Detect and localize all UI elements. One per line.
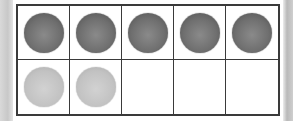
dark-counter-icon (24, 13, 64, 53)
ten-frame-cell (18, 6, 70, 60)
dark-counter-icon (76, 13, 116, 53)
dark-counter-icon (180, 13, 220, 53)
ten-frame-cell (122, 60, 174, 114)
ten-frame-cell (70, 6, 122, 60)
dark-counter-icon (128, 13, 168, 53)
ten-frame-cell (174, 6, 226, 60)
ten-frame-cell (226, 6, 278, 60)
ten-frame-cell (70, 60, 122, 114)
ten-frame-cell (18, 60, 70, 114)
left-edge-strip (0, 0, 13, 121)
dark-counter-icon (232, 13, 272, 53)
right-edge-strip (283, 0, 293, 121)
ten-frame (16, 4, 280, 116)
ten-frame-cell (174, 60, 226, 114)
ten-frame-cell (122, 6, 174, 60)
light-counter-icon (24, 67, 64, 107)
ten-frame-cell (226, 60, 278, 114)
light-counter-icon (76, 67, 116, 107)
